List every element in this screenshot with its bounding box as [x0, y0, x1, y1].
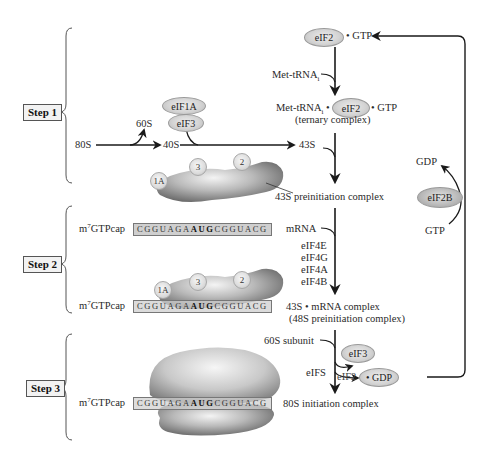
ribosome-80s-step3 [149, 347, 280, 435]
mrna-label: mRNA [286, 223, 316, 235]
marker-2-step1: 2 [233, 153, 251, 171]
marker-1a-step2: 1A [154, 281, 172, 299]
marker-2-step2: 2 [233, 271, 251, 289]
step-2-label: Step 2 [23, 256, 62, 273]
complex-48s-label: 43S • mRNA complex [286, 301, 380, 313]
mrna-sequence-80s: CGGUAGAAUGCGGUACG [133, 397, 272, 410]
ternary-gtp: • GTP [371, 102, 397, 114]
complex-48s-note: (48S preinitiation complex) [289, 313, 405, 325]
mrna-sequence-step2: CGGUAGAAUGCGGUACG [133, 223, 272, 236]
label-80s: 80S [75, 139, 91, 151]
arrow-eif3-release [335, 362, 352, 367]
step-1-label: Step 1 [23, 104, 62, 121]
subunit-60s-label: 60S subunit [264, 335, 314, 347]
label-43s: 43S [299, 139, 315, 151]
eifs-label: eIFS [306, 367, 326, 379]
cap-label-step2: m7GTPcap [79, 223, 125, 235]
eif2-released-label: eIF2 [337, 371, 356, 383]
eif2-gdp-oval: • GDP [359, 368, 399, 387]
brace-step2 [61, 206, 72, 313]
cap-label-step2b: m7GTPcap [79, 300, 125, 312]
ribosome-40s-step1 [157, 162, 293, 202]
factor-eif4e: eIF4E [301, 240, 327, 252]
marker-3-step1: 3 [189, 158, 207, 176]
marker-1a-step1: 1A [150, 172, 168, 190]
eif2b-oval: eIF2B [417, 187, 463, 208]
mrna-sequence-48s: CGGUAGAAUGCGGUACG [133, 300, 272, 313]
cap-label-step3: m7GTPcap [79, 397, 125, 409]
recycle-gtp: GTP [425, 225, 445, 237]
factor-eif4b: eIF4B [301, 276, 327, 288]
ternary-complex-note: (ternary complex) [295, 114, 371, 126]
eif1a-oval: eIF1A [162, 97, 206, 115]
label-40s: 40S [163, 139, 179, 151]
initiation-complex-80s-label: 80S initiation complex [283, 398, 379, 410]
marker-3-step2: 3 [189, 273, 207, 291]
brace-step1 [61, 28, 72, 183]
recycle-gdp: GDP [416, 156, 437, 168]
eif3-released-oval: eIF3 [341, 344, 375, 363]
label-60s: 60S [136, 118, 152, 130]
factor-eif4g: eIF4G [301, 252, 328, 264]
eif3-oval: eIF3 [168, 114, 204, 132]
step-3-label: Step 3 [26, 380, 65, 397]
arrow-60s-release [130, 130, 144, 145]
factor-eif4a: eIF4A [301, 264, 328, 276]
ternary-prefix: Met-tRNAi • [276, 102, 330, 114]
eif2-gtp-label: • GTP [346, 30, 372, 42]
eif2-oval: eIF2 [304, 28, 344, 47]
met-trna-label: Met-tRNAi [272, 69, 319, 81]
preinit-complex-label: 43S preinitiation complex [275, 191, 384, 203]
